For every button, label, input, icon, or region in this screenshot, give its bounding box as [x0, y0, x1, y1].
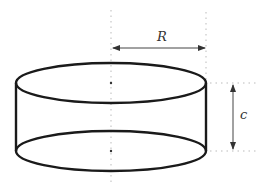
cylinder-diagram: R c — [0, 0, 268, 192]
top-center-dot — [110, 82, 112, 84]
cylinder-shape — [16, 63, 206, 171]
bottom-center-dot — [110, 150, 112, 152]
radius-label: R — [157, 30, 167, 43]
height-label: c — [240, 108, 247, 121]
cylinder-drawing — [0, 0, 268, 192]
guide-lines — [111, 10, 256, 186]
